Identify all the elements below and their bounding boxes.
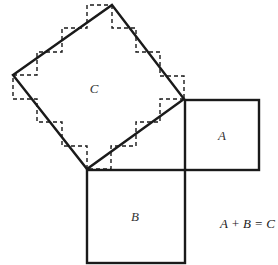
square-c-label: C <box>90 81 99 96</box>
staircase-dashed-grid <box>13 5 184 169</box>
pythagorean-diagram: C A B A + B = C <box>0 0 278 265</box>
equation-text: A + B = C <box>219 216 275 231</box>
square-c-outline <box>13 5 184 169</box>
square-b-label: B <box>131 209 139 224</box>
square-a-label: A <box>217 128 226 143</box>
